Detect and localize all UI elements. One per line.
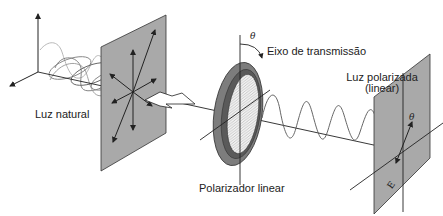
label-polarized-light: Luz polarizada (linear) xyxy=(342,72,422,94)
origin-axes xyxy=(10,14,38,86)
label-linear-polarizer: Polarizador linear xyxy=(199,183,285,194)
linear-polarizer xyxy=(200,35,270,185)
label-natural-light: Luz natural xyxy=(35,109,89,120)
theta-arc-polarizer xyxy=(240,44,262,58)
polarized-wave xyxy=(262,95,392,142)
theta-label-polarizer: θ xyxy=(250,31,255,41)
natural-light-panel xyxy=(101,15,166,171)
theta-label-screen: θ xyxy=(409,112,414,122)
label-polarized-light-line2: (linear) xyxy=(365,82,399,94)
polarization-diagram: Luz natural Eixo de transmissão Luz pola… xyxy=(0,0,443,216)
label-transmission-axis: Eixo de transmissão xyxy=(267,46,366,57)
